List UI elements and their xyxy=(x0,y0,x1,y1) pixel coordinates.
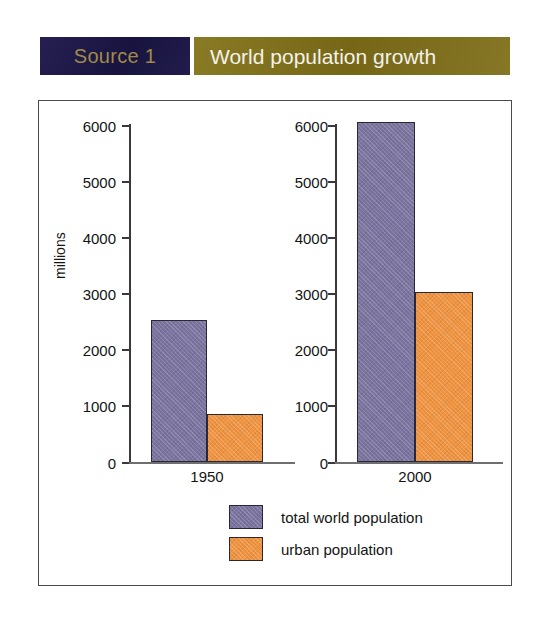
legend-item-urban-population: urban population xyxy=(229,533,423,565)
y-tick-label-1: 1000 xyxy=(56,399,116,414)
y-tick-3 xyxy=(328,293,335,295)
y-tick-label-2: 2000 xyxy=(56,343,116,358)
bar-1950-urban-population xyxy=(207,414,263,462)
chart-panels: millions 0 1000 2000 3000 4000 5000 6000… xyxy=(39,101,511,493)
y-tick-label-6: 6000 xyxy=(56,119,116,134)
chart-title-bar: World population growth xyxy=(194,37,510,75)
source-badge: Source 1 xyxy=(40,37,190,75)
bar-2000-total-world-population xyxy=(357,122,415,462)
x-axis-line xyxy=(335,462,503,464)
y-tick-label-0: 0 xyxy=(56,456,116,471)
page-title: World population growth xyxy=(210,46,436,67)
y-tick-label-6: 6000 xyxy=(268,119,328,134)
y-tick-3 xyxy=(122,293,129,295)
y-axis-line xyxy=(335,124,337,463)
bar-2000-urban-population xyxy=(415,292,473,462)
y-tick-1 xyxy=(122,405,129,407)
legend-label-total-world-population: total world population xyxy=(281,510,423,525)
y-tick-5 xyxy=(122,181,129,183)
legend-item-total-world-population: total world population xyxy=(229,501,423,533)
x-category-label-2000: 2000 xyxy=(357,469,473,484)
y-tick-4 xyxy=(328,237,335,239)
y-tick-5 xyxy=(328,181,335,183)
y-tick-2 xyxy=(328,349,335,351)
y-tick-label-5: 5000 xyxy=(56,175,116,190)
y-tick-6 xyxy=(328,125,335,127)
source-header: Source 1 World population growth xyxy=(40,37,510,75)
source-badge-label: Source 1 xyxy=(74,46,156,66)
y-tick-label-0: 0 xyxy=(268,456,328,471)
y-tick-label-3: 3000 xyxy=(56,287,116,302)
chart-frame: millions 0 1000 2000 3000 4000 5000 6000… xyxy=(38,100,512,586)
y-tick-2 xyxy=(122,349,129,351)
y-tick-0 xyxy=(122,462,129,464)
y-tick-1 xyxy=(328,405,335,407)
y-tick-6 xyxy=(122,125,129,127)
chart-panel-1950: millions 0 1000 2000 3000 4000 5000 6000… xyxy=(47,101,299,493)
y-tick-label-4: 4000 xyxy=(268,231,328,246)
y-tick-label-4: 4000 xyxy=(56,231,116,246)
y-tick-label-1: 1000 xyxy=(268,399,328,414)
y-tick-0 xyxy=(328,462,335,464)
y-tick-label-2: 2000 xyxy=(268,343,328,358)
y-axis-line xyxy=(129,124,131,463)
legend-swatch-total-world-population xyxy=(229,505,263,529)
chart-legend: total world population urban population xyxy=(229,501,423,565)
legend-label-urban-population: urban population xyxy=(281,542,393,557)
chart-panel-2000: 0 1000 2000 3000 4000 5000 6000 2000 xyxy=(291,101,505,493)
bar-1950-total-world-population xyxy=(151,320,207,462)
x-category-label-1950: 1950 xyxy=(151,469,263,484)
y-tick-label-5: 5000 xyxy=(268,175,328,190)
y-tick-4 xyxy=(122,237,129,239)
y-tick-label-3: 3000 xyxy=(268,287,328,302)
legend-swatch-urban-population xyxy=(229,537,263,561)
